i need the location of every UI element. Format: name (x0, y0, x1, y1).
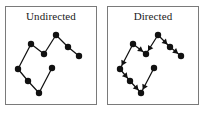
graph-node (76, 53, 82, 59)
graph-node (28, 41, 34, 47)
graph-node (127, 78, 133, 84)
graph-edge-arrowhead (137, 46, 143, 52)
panel-undirected: Undirected (5, 6, 97, 105)
graph-node (167, 44, 173, 50)
graph-node (65, 44, 71, 50)
graph-node (151, 65, 157, 71)
graph-edge (18, 44, 31, 69)
graph-edge (39, 68, 52, 93)
graph-node (49, 65, 55, 71)
graph-node (36, 90, 42, 96)
graph-node (138, 90, 144, 96)
panel-directed: Directed (107, 6, 199, 105)
panel-title-undirected: Undirected (6, 10, 96, 23)
graph-node (41, 51, 47, 57)
graph-edge (146, 35, 158, 54)
graph-node (143, 51, 149, 57)
graph-node (117, 66, 123, 72)
graph-node (25, 78, 31, 84)
panel-title-directed: Directed (108, 10, 198, 23)
graph-node (53, 32, 59, 38)
graph-node (15, 66, 21, 72)
undirected-vs-directed-graph-figure: Undirected Directed (0, 0, 206, 115)
graph-undirected (6, 23, 96, 104)
graph-node (178, 53, 184, 59)
graph-node (155, 32, 161, 38)
graph-edge (44, 35, 56, 54)
graph-directed (108, 23, 198, 104)
graph-node (130, 41, 136, 47)
